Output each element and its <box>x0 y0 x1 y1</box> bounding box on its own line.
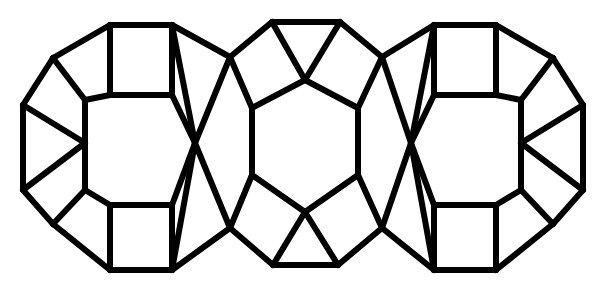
diagram-background <box>0 0 606 281</box>
polyhedron-diagram <box>0 0 606 281</box>
figure-canvas <box>0 0 606 281</box>
